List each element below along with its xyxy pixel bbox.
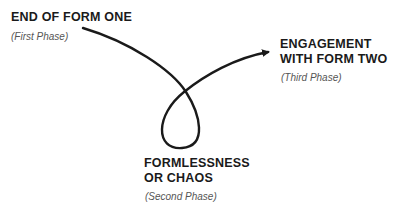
phase3-title-line-2: WITH FORM TWO [280,52,387,67]
phase2-title-line-1: FORMLESSNESS [144,156,250,171]
phase-transition-curve [83,28,268,148]
phase3-subtitle: (Third Phase) [281,72,342,84]
phase2-subtitle: (Second Phase) [145,191,217,203]
phase1-subtitle: (First Phase) [11,31,68,43]
phase3-title: ENGAGEMENT WITH FORM TWO [280,37,387,67]
phase2-title: FORMLESSNESS OR CHAOS [144,156,250,186]
phase3-title-line-1: ENGAGEMENT [280,37,387,52]
phase1-title-line: END OF FORM ONE [11,10,132,25]
phase2-title-line-2: OR CHAOS [144,171,250,186]
diagram-canvas: END OF FORM ONE (First Phase) ENGAGEMENT… [0,0,416,206]
phase1-title: END OF FORM ONE [11,10,132,25]
